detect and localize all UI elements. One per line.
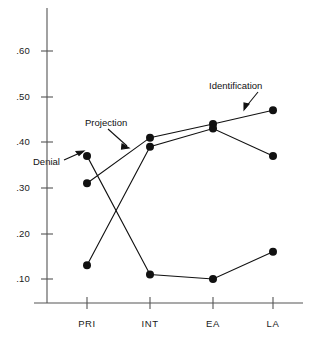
series-line — [87, 156, 273, 279]
leader-projection — [108, 129, 129, 149]
plot-area — [0, 0, 309, 341]
data-point-la — [269, 248, 277, 256]
series-line — [87, 129, 273, 266]
line-chart: .60 .50 .40 .30 .20 .10 PRI INT EA LA De… — [0, 0, 309, 341]
data-point-pri — [83, 152, 91, 160]
leader-identification — [244, 92, 258, 110]
series-line — [87, 110, 273, 183]
data-point-ea — [209, 125, 217, 133]
leader-denial — [64, 151, 84, 160]
data-point-pri — [83, 261, 91, 269]
data-point-ea — [209, 275, 217, 283]
data-point-int — [146, 143, 154, 151]
data-point-la — [269, 152, 277, 160]
data-point-la — [269, 106, 277, 114]
data-point-int — [146, 134, 154, 142]
data-point-int — [146, 270, 154, 278]
data-point-pri — [83, 179, 91, 187]
series-identification — [83, 125, 277, 270]
annotation-leaders — [64, 92, 258, 160]
series-projection — [83, 106, 277, 187]
